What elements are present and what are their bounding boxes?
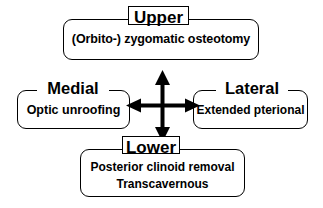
medial-approach-line-1: Optic unroofing	[18, 103, 129, 117]
lateral-heading-label: Lateral	[216, 79, 288, 96]
upper-heading-label: Upper	[128, 6, 189, 25]
upper-approach-line-1: (Orbito-) zygomatic osteotomy	[64, 32, 258, 46]
medial-heading-label: Medial	[37, 79, 109, 96]
diagram-canvas: (Orbito-) zygomatic osteotomy Upper Opti…	[0, 0, 323, 208]
lower-heading-label: Lower	[122, 136, 180, 154]
lateral-approach-line-1: Extended pterional	[194, 103, 307, 117]
lower-approach-line-1: Posterior clinoid removal	[81, 160, 244, 174]
lower-approach-line-2: Transcavernous	[81, 177, 244, 191]
four-way-arrow-icon	[126, 70, 200, 142]
